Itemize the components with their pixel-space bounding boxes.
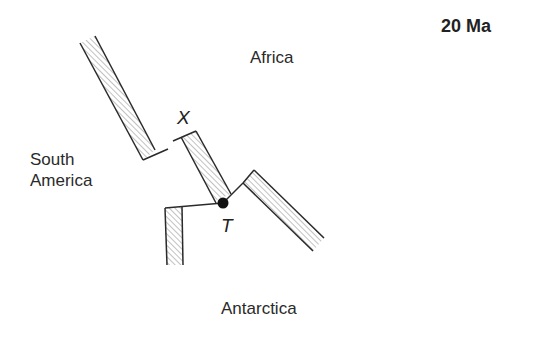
ridge-segment-northwest — [80, 36, 168, 160]
ridge-segment-east — [223, 170, 324, 251]
point-label-t: T — [221, 215, 233, 237]
plate-label-antarctica: Antarctica — [221, 298, 297, 319]
plate-label-south-america-line1: South — [30, 149, 92, 170]
ridge-segment-middle — [173, 131, 231, 203]
plate-label-south-america: South America — [30, 149, 92, 191]
ridge-segment-south — [165, 203, 223, 265]
triple-junction-dot — [218, 198, 229, 209]
plate-label-africa: Africa — [250, 47, 293, 68]
point-label-x: X — [177, 107, 190, 129]
plate-label-south-america-line2: America — [30, 170, 92, 191]
age-label: 20 Ma — [441, 16, 491, 37]
